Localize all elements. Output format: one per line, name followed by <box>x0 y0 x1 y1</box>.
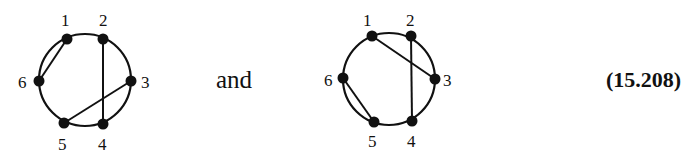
vertex-label-4: 4 <box>98 135 107 154</box>
vertex-5 <box>59 118 70 129</box>
vertex-6 <box>34 76 45 87</box>
vertex-label-2: 2 <box>406 11 415 30</box>
chord-diagram-1: 123456 <box>18 11 150 154</box>
vertex-3 <box>126 76 137 87</box>
vertex-3 <box>430 74 441 85</box>
vertex-label-1: 1 <box>363 11 372 30</box>
vertex-5 <box>369 117 380 128</box>
equation-number: (15.208) <box>606 66 681 94</box>
outer-circle <box>39 34 131 126</box>
vertex-2 <box>98 34 109 45</box>
chord-diagram-2: 123456 <box>324 11 452 151</box>
chord-3-5 <box>64 81 131 123</box>
vertex-1 <box>367 31 378 42</box>
vertex-1 <box>62 34 73 45</box>
chord-2-4 <box>411 36 412 121</box>
vertex-label-4: 4 <box>407 132 416 151</box>
chord-1-3 <box>372 36 435 79</box>
vertex-label-2: 2 <box>99 11 108 30</box>
vertex-label-5: 5 <box>368 132 377 151</box>
vertex-label-1: 1 <box>61 11 70 30</box>
vertex-2 <box>406 31 417 42</box>
vertex-6 <box>338 73 349 84</box>
vertex-4 <box>407 116 418 127</box>
vertex-label-5: 5 <box>58 135 67 154</box>
vertex-label-3: 3 <box>443 71 452 90</box>
diagram-canvas: 123456123456 <box>0 0 700 159</box>
vertex-label-6: 6 <box>324 71 333 90</box>
vertex-label-6: 6 <box>18 73 27 92</box>
connector-word: and <box>216 65 252 95</box>
vertex-label-3: 3 <box>141 73 150 92</box>
vertex-4 <box>98 119 109 130</box>
